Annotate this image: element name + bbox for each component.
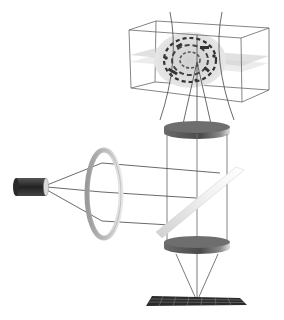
camera-sensor bbox=[146, 296, 247, 306]
light-source bbox=[13, 178, 49, 196]
specimen-cell bbox=[154, 32, 226, 88]
focusing-rays bbox=[176, 254, 218, 299]
tube-lens bbox=[164, 236, 230, 254]
optical-diagram bbox=[0, 0, 284, 320]
excitation-rays bbox=[47, 163, 220, 225]
dichroic-mirror bbox=[156, 167, 244, 238]
